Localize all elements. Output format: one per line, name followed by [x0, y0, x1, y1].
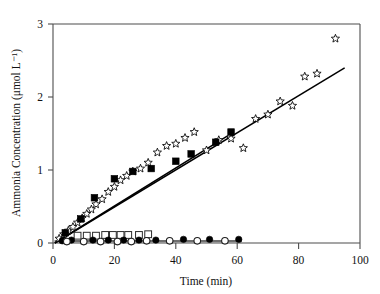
figure-container: 0123 020406080100 Time (min) Ammonia Con…	[0, 0, 380, 294]
open-circle-marker	[143, 238, 150, 245]
x-axis-title: Time (min)	[180, 275, 232, 288]
y-tick-label: 1	[37, 164, 43, 176]
open-circle-marker	[128, 238, 135, 245]
filled-square-marker	[62, 229, 69, 236]
filled-square-marker	[212, 139, 219, 146]
filled-circle-marker	[105, 237, 111, 243]
open-circle-marker	[166, 238, 173, 245]
filled-circle-marker	[153, 237, 159, 243]
open-circle-marker	[97, 238, 104, 245]
y-axis-title: Ammonia Concentration (μmol L⁻¹)	[10, 49, 23, 217]
open-square-marker	[109, 232, 116, 239]
filled-circle-marker	[90, 237, 96, 243]
open-circle-marker	[64, 238, 71, 245]
y-tick-label: 2	[37, 91, 43, 103]
ammonia-concentration-scatter-chart: 0123 020406080100 Time (min) Ammonia Con…	[0, 0, 380, 294]
filled-circle-marker	[206, 236, 212, 242]
open-circle-marker	[80, 238, 87, 245]
x-tick-label: 0	[50, 254, 56, 266]
x-tick-label: 100	[351, 254, 369, 266]
open-circle-marker	[114, 238, 121, 245]
filled-square-marker	[173, 158, 180, 165]
filled-square-marker	[188, 151, 195, 158]
filled-square-marker	[91, 194, 98, 201]
open-square-marker	[125, 232, 132, 239]
filled-circle-marker	[120, 237, 126, 243]
filled-circle-marker	[180, 236, 186, 242]
x-tick-label: 40	[170, 254, 182, 266]
filled-circle-marker	[236, 236, 242, 242]
y-tick-label: 0	[37, 237, 43, 249]
y-tick-label: 3	[37, 18, 43, 30]
filled-square-marker	[228, 129, 235, 136]
open-circle-marker	[222, 238, 229, 245]
open-circle-marker	[194, 238, 201, 245]
filled-square-marker	[130, 168, 137, 175]
filled-square-marker	[111, 175, 118, 182]
filled-square-marker	[77, 216, 84, 223]
filled-circle-marker	[136, 237, 142, 243]
x-tick-label: 80	[293, 254, 305, 266]
open-square-marker	[145, 231, 152, 238]
x-tick-label: 20	[109, 254, 121, 266]
x-tick-label: 60	[231, 254, 243, 266]
filled-square-marker	[148, 165, 155, 172]
chart-background	[0, 0, 380, 294]
open-square-marker	[74, 232, 81, 239]
